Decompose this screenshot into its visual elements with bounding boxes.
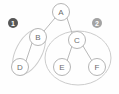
graph-svg: A B C D E F bbox=[0, 0, 119, 94]
node-c-label: C bbox=[74, 36, 80, 45]
graph-nodes: A B C D E F bbox=[12, 4, 106, 76]
cluster-badges: 1 2 bbox=[8, 18, 102, 28]
node-e-label: E bbox=[59, 63, 64, 72]
node-b[interactable]: B bbox=[30, 29, 47, 46]
edge-a-b bbox=[44, 18, 55, 31]
node-c[interactable]: C bbox=[69, 32, 86, 49]
edge-b-d bbox=[26, 43, 32, 61]
diagram-canvas: A B C D E F bbox=[0, 0, 119, 94]
node-d-label: D bbox=[17, 63, 23, 72]
cluster-badge-1-label: 1 bbox=[11, 20, 15, 27]
cluster-badge-2-label: 2 bbox=[95, 20, 99, 27]
cluster-badge-1[interactable]: 1 bbox=[8, 18, 18, 28]
node-a-label: A bbox=[58, 8, 64, 17]
node-a[interactable]: A bbox=[53, 4, 70, 21]
edge-a-c bbox=[67, 18, 72, 33]
node-d[interactable]: D bbox=[12, 59, 29, 76]
node-f-label: F bbox=[95, 63, 100, 72]
node-e[interactable]: E bbox=[54, 59, 71, 76]
node-f[interactable]: F bbox=[89, 59, 106, 76]
edge-c-f bbox=[83, 46, 92, 61]
cluster-badge-2[interactable]: 2 bbox=[92, 18, 102, 28]
node-b-label: B bbox=[35, 33, 40, 42]
edge-c-e bbox=[67, 46, 72, 61]
